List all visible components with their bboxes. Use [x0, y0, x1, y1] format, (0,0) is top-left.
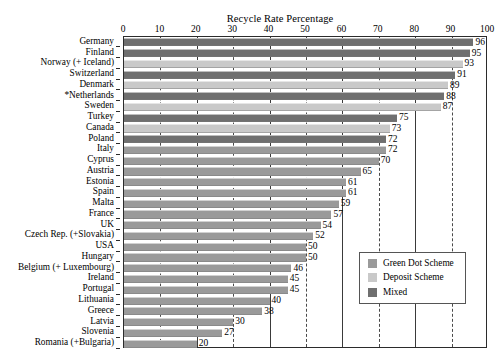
legend-swatch-green-dot	[368, 259, 377, 268]
y-axis-label: Ireland	[88, 273, 114, 282]
y-axis-category-labels: GermanyFinlandNorway (+ Iceland)Switzerl…	[0, 36, 120, 348]
bar	[124, 318, 233, 326]
bar-value-label: 59	[341, 199, 351, 209]
y-axis-label: USA	[95, 241, 114, 250]
y-axis-tick	[116, 348, 120, 349]
x-tick-label-30: 30	[227, 24, 237, 34]
bar	[124, 103, 441, 111]
y-axis-tick	[116, 272, 120, 273]
legend-label: Mixed	[383, 288, 407, 297]
y-axis-tick	[116, 79, 120, 80]
bar-row: 61	[124, 188, 486, 199]
bar	[124, 340, 197, 348]
bar	[124, 157, 379, 165]
bar-value-label: 87	[443, 102, 453, 112]
bar	[124, 92, 444, 100]
legend: Green Dot SchemeDeposit SchemeMixed	[359, 252, 466, 304]
y-axis-label: Poland	[88, 134, 114, 143]
y-axis-tick	[116, 132, 120, 133]
y-axis-label: Spain	[93, 187, 114, 196]
bar	[124, 221, 321, 229]
bar-value-label: 52	[315, 231, 325, 241]
y-axis-label: Czech Rep. (+Slovakia)	[25, 230, 114, 239]
bar	[124, 200, 339, 208]
bar-value-label: 45	[290, 285, 300, 295]
y-axis-tick	[116, 229, 120, 230]
y-axis-tick	[116, 261, 120, 262]
bar	[124, 124, 390, 132]
bar-row: 20	[124, 338, 486, 349]
bar-value-label: 73	[392, 124, 402, 134]
y-axis-tick	[116, 294, 120, 295]
bar	[124, 178, 346, 186]
x-tick-label-100: 100	[480, 24, 494, 34]
y-axis-label: Estonia	[86, 177, 114, 186]
x-tick-label-90: 90	[446, 24, 456, 34]
bar-value-label: 61	[348, 178, 358, 188]
x-tick-label-70: 70	[373, 24, 383, 34]
bar-row: 93	[124, 59, 486, 70]
bar	[124, 135, 386, 143]
bar	[124, 253, 306, 261]
y-axis-label: Slovenia	[81, 327, 114, 336]
y-axis-label: Hungary	[81, 252, 114, 261]
bar-value-label: 50	[308, 242, 318, 252]
bar-value-label: 70	[381, 156, 391, 166]
bar-row: 59	[124, 198, 486, 209]
x-tick-label-40: 40	[264, 24, 274, 34]
y-axis-tick	[116, 154, 120, 155]
y-axis-label: Romania (+Bulgaria)	[35, 338, 114, 347]
bar	[124, 307, 262, 315]
y-axis-label: France	[89, 209, 114, 218]
y-axis-tick	[116, 304, 120, 305]
bar-row: 96	[124, 37, 486, 48]
bar-value-label: 72	[388, 145, 398, 155]
y-axis-label: Finland	[86, 48, 114, 57]
bar-row: 89	[124, 80, 486, 91]
bar	[124, 167, 361, 175]
bar-value-label: 95	[472, 49, 482, 59]
bar-row: 65	[124, 166, 486, 177]
y-axis-label: Canada	[86, 123, 114, 132]
bar-value-label: 38	[264, 307, 274, 317]
y-axis-tick	[116, 251, 120, 252]
y-axis-label: Portugal	[82, 284, 114, 293]
bar-row: 88	[124, 91, 486, 102]
y-axis-tick	[116, 68, 120, 69]
bar-value-label: 40	[272, 296, 282, 306]
bar-row: 72	[124, 145, 486, 156]
bar-value-label: 88	[446, 92, 456, 102]
chart-title: Recycle Rate Percentage	[0, 13, 500, 24]
bar-value-label: 61	[348, 188, 358, 198]
y-axis-label: Germany	[79, 37, 114, 46]
y-axis-label: Lithuania	[78, 295, 114, 304]
y-axis-label: Austria	[87, 166, 114, 175]
bar-row: 54	[124, 220, 486, 231]
recycle-rate-bar-chart: Recycle Rate Percentage 0102030405060708…	[0, 0, 500, 360]
y-axis-label: Latvia	[90, 317, 114, 326]
y-axis-tick	[116, 197, 120, 198]
y-axis-tick	[116, 57, 120, 58]
bar	[124, 189, 346, 197]
y-axis-label: Malta	[92, 198, 114, 207]
bar-value-label: 45	[290, 274, 300, 284]
y-axis-tick	[116, 122, 120, 123]
bar-value-label: 96	[475, 38, 485, 48]
bar	[124, 329, 222, 337]
x-tick-label-80: 80	[409, 24, 419, 34]
y-axis-tick	[116, 240, 120, 241]
bar-row: 27	[124, 327, 486, 338]
y-axis-label: Switzerland	[70, 69, 114, 78]
y-axis-label: Belgium (+ Luxembourg)	[18, 263, 114, 272]
bar	[124, 275, 288, 283]
bar	[124, 232, 313, 240]
legend-item-green-dot: Green Dot Scheme	[368, 259, 458, 268]
y-axis-tick	[116, 218, 120, 219]
y-axis-tick	[116, 337, 120, 338]
bar	[124, 210, 331, 218]
bar-value-label: 57	[333, 210, 343, 220]
x-tick-label-20: 20	[191, 24, 201, 34]
bar-row: 38	[124, 306, 486, 317]
bar-value-label: 27	[224, 328, 234, 338]
bar-value-label: 72	[388, 135, 398, 145]
